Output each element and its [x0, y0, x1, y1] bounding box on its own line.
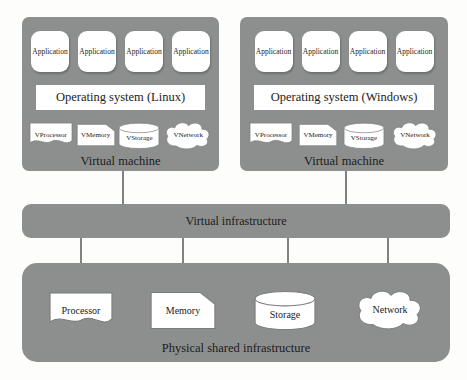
application-tile: Application — [78, 31, 116, 72]
cloud-shape-icon — [354, 284, 426, 335]
application-tile: Application — [125, 31, 163, 72]
application-label: Application — [79, 47, 114, 56]
memory-resource: Memory — [149, 286, 217, 335]
connector-vm2-to-virtual-infrastructure — [345, 171, 347, 204]
card-shape-icon — [298, 122, 338, 148]
operating-system-label: Operating system (Linux) — [56, 90, 185, 105]
operating-system-bar: Operating system (Linux) — [36, 85, 205, 110]
application-label: Application — [126, 47, 161, 56]
virtual-machine-box-windows: Application Application Application Appl… — [240, 17, 448, 171]
application-label: Application — [32, 47, 67, 56]
physical-infrastructure-caption: Physical shared infrastructure — [22, 341, 450, 356]
wave-shape-icon — [248, 121, 294, 149]
virtual-machine-box-linux: Application Application Application Appl… — [22, 17, 219, 171]
application-tile: Application — [255, 31, 293, 72]
application-tile: Application — [172, 31, 210, 72]
connector-vi-to-physical-1 — [80, 238, 82, 263]
cloud-shape-icon — [163, 120, 213, 151]
application-tile: Application — [302, 31, 340, 72]
application-label: Application — [256, 47, 291, 56]
virtual-machine-caption: Virtual machine — [240, 154, 448, 169]
cylinder-shape-icon — [117, 121, 161, 150]
vnetwork-resource: VNetwork — [163, 120, 213, 151]
card-shape-icon — [149, 286, 217, 335]
vmemory-resource: VMemory — [298, 122, 338, 148]
connector-vm1-to-virtual-infrastructure — [122, 171, 124, 204]
vnetwork-resource: VNetwork — [390, 120, 440, 151]
application-label: Application — [350, 47, 385, 56]
virtual-infrastructure-bar: Virtual infrastructure — [22, 204, 450, 238]
vstorage-resource: VStorage — [342, 121, 386, 150]
application-tile: Application — [396, 31, 434, 72]
vmemory-resource: VMemory — [76, 122, 116, 148]
applications-row: Application Application Application Appl… — [22, 17, 219, 72]
network-resource: Network — [354, 284, 426, 335]
application-label: Application — [303, 47, 338, 56]
wave-shape-icon — [48, 286, 114, 335]
virtual-machine-caption: Virtual machine — [22, 154, 219, 169]
vstorage-resource: VStorage — [117, 121, 161, 150]
operating-system-bar: Operating system (Windows) — [254, 85, 434, 110]
virtualization-architecture-diagram: Application Application Application Appl… — [0, 0, 467, 380]
storage-resource: Storage — [252, 287, 318, 333]
virtual-resources-row: VProcessor VMemory VStorage VNetwork — [22, 118, 219, 152]
applications-row: Application Application Application Appl… — [240, 17, 448, 72]
vprocessor-resource: VProcessor — [28, 121, 74, 149]
connector-vi-to-physical-2 — [182, 238, 184, 263]
cloud-shape-icon — [390, 120, 440, 151]
processor-resource: Processor — [48, 286, 114, 335]
physical-infrastructure-box: Processor Memory Storage Network Physica… — [22, 263, 450, 362]
cylinder-shape-icon — [342, 121, 386, 150]
application-label: Application — [173, 47, 208, 56]
connector-vi-to-physical-4 — [387, 238, 389, 263]
application-label: Application — [397, 47, 432, 56]
virtual-resources-row: VProcessor VMemory VStorage VNetwork — [240, 118, 448, 152]
wave-shape-icon — [28, 121, 74, 149]
operating-system-label: Operating system (Windows) — [271, 90, 418, 105]
application-tile: Application — [349, 31, 387, 72]
card-shape-icon — [76, 122, 116, 148]
vprocessor-resource: VProcessor — [248, 121, 294, 149]
connector-vi-to-physical-3 — [287, 238, 289, 263]
application-tile: Application — [31, 31, 69, 72]
cylinder-shape-icon — [252, 287, 318, 333]
virtual-infrastructure-label: Virtual infrastructure — [186, 214, 287, 229]
